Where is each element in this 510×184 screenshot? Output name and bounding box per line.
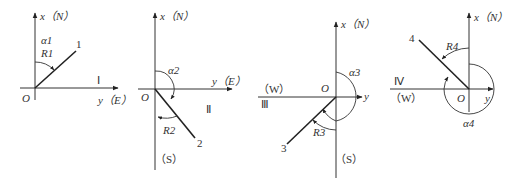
- quadrant-numeral: Ⅲ: [261, 98, 269, 110]
- quadrant-numeral: Ⅱ: [206, 103, 211, 115]
- west-label: （W）: [258, 83, 290, 95]
- alpha-label: α3: [349, 66, 361, 78]
- r-label: R1: [40, 47, 53, 59]
- direction-line-3: [287, 97, 336, 144]
- x-axis-label: x（N）: [473, 11, 508, 23]
- line-number-label: 1: [76, 38, 82, 50]
- y-axis-label: y: [484, 92, 490, 104]
- x-axis-label: x（N）: [340, 18, 375, 30]
- line-number-label: 3: [281, 142, 287, 154]
- x-axis-label: x（N）: [39, 10, 74, 22]
- r-label: R3: [312, 126, 326, 138]
- r-arc-2: [158, 116, 177, 118]
- line-number-label: 4: [409, 32, 415, 44]
- quadrant-numeral: Ⅳ: [394, 75, 405, 87]
- alpha-label: α2: [168, 64, 180, 76]
- x-axis-label: x（N）: [159, 10, 194, 22]
- panel-quadrant-2: x（N） α2 y（E） O Ⅱ R2 2 （S）: [138, 10, 246, 170]
- alpha-label: α4: [463, 117, 475, 129]
- south-label: （S）: [335, 153, 363, 165]
- r-label: R4: [445, 40, 459, 52]
- direction-line-4: [419, 40, 469, 89]
- line-number-label: 2: [197, 137, 203, 149]
- y-axis-label: y（E）: [97, 94, 132, 106]
- bearing-diagrams: x（N） α1 R1 1 Ⅰ O y（E） x（N） α2 y（E） O Ⅱ R…: [0, 0, 510, 184]
- y-axis-label: y（E）: [211, 75, 246, 87]
- origin-label: O: [141, 91, 149, 103]
- origin-label: O: [457, 92, 465, 104]
- quadrant-numeral: Ⅰ: [97, 74, 100, 86]
- origin-label: O: [22, 92, 30, 104]
- r-label: R2: [162, 124, 176, 136]
- y-axis-label: y: [363, 90, 369, 102]
- west-label: （W）: [390, 92, 422, 104]
- panel-quadrant-4: x（N） 4 R4 Ⅳ （W） O y α4: [390, 11, 508, 129]
- south-label: （S）: [155, 153, 183, 165]
- origin-label: O: [321, 82, 329, 94]
- alpha-label: α1: [41, 34, 52, 46]
- panel-quadrant-3: x（N） α3 （W） O y Ⅲ R3 3 （S）: [258, 18, 375, 178]
- angle-arc-1: [35, 62, 54, 70]
- panel-quadrant-1: x（N） α1 R1 1 Ⅰ O y（E）: [20, 10, 132, 106]
